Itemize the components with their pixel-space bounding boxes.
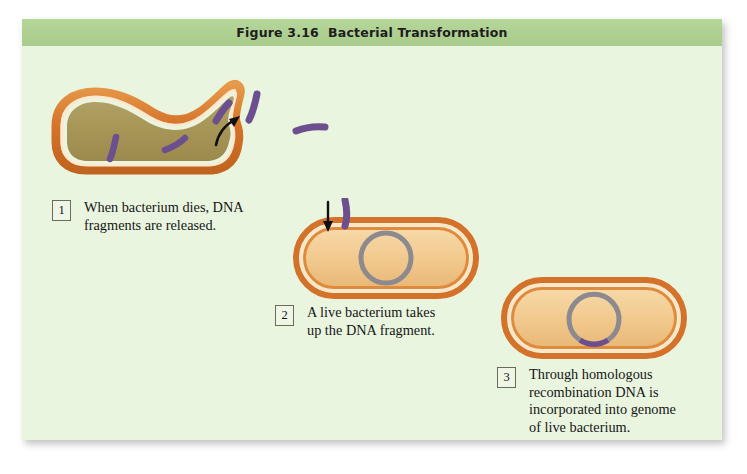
- figure-title-bar: Figure 3.16 Bacterial Transformation: [22, 19, 722, 46]
- illustration-step-1: [44, 64, 344, 204]
- step-2-caption: 2 A live bacterium takes up the DNA frag…: [275, 304, 435, 339]
- step-1-caption: 1 When bacterium dies, DNA fragments are…: [52, 199, 244, 234]
- step-2-text: A live bacterium takes up the DNA fragme…: [307, 304, 435, 339]
- step-3-text: Through homologous recombination DNA is …: [529, 366, 676, 436]
- figure-title: Figure 3.16 Bacterial Transformation: [236, 25, 507, 40]
- step-2-number: 2: [275, 305, 294, 326]
- illustration-step-3: [498, 268, 708, 378]
- dna-fragment-released-2: [296, 127, 325, 131]
- live-bacterium-inner-membrane: [305, 229, 468, 288]
- recombined-bacterium-inner-membrane: [513, 289, 676, 348]
- figure-illustration-area: 1 When bacterium dies, DNA fragments are…: [22, 46, 722, 440]
- step-1-text: When bacterium dies, DNA fragments are r…: [84, 199, 244, 234]
- figure-panel: Figure 3.16 Bacterial Transformation: [22, 19, 722, 440]
- step-1-number: 1: [52, 200, 71, 221]
- dna-fragment-uptake: [345, 200, 347, 226]
- step-3-number: 3: [497, 367, 516, 388]
- illustration-step-2: [290, 198, 500, 308]
- step-3-caption: 3 Through homologous recombination DNA i…: [497, 366, 676, 436]
- dna-fragment-released-1: [249, 94, 257, 120]
